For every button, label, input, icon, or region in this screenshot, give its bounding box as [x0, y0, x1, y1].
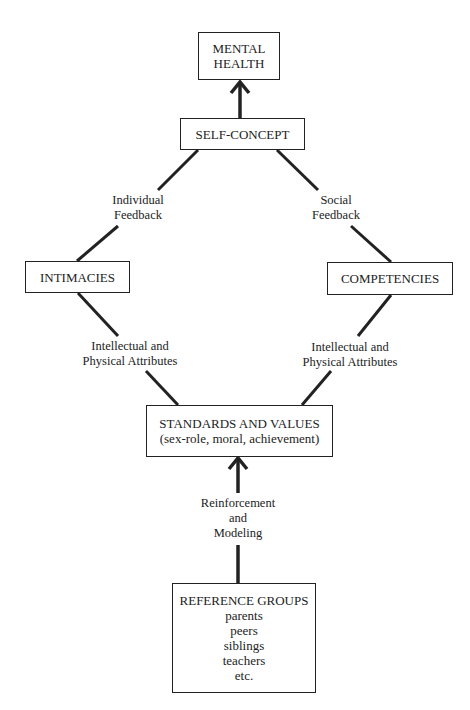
node-text: INTIMACIES: [40, 270, 115, 285]
node-title: REFERENCE GROUPS: [180, 593, 309, 608]
label-line: Feedback: [108, 208, 168, 223]
label-line: Intellectual and: [295, 340, 405, 355]
edge-label-right-attributes: Intellectual and Physical Attributes: [295, 340, 405, 370]
node-text: MENTAL: [212, 41, 265, 56]
line-individual-feedback-to-intimacies: [77, 226, 118, 261]
label-line: Individual: [108, 193, 168, 208]
label-line: Feedback: [306, 208, 366, 223]
node-title: STANDARDS AND VALUES: [159, 416, 319, 431]
group-item: siblings: [224, 638, 264, 653]
node-text: SELF-CONCEPT: [196, 127, 290, 142]
label-line: Intellectual and: [75, 339, 185, 354]
line-intimacies-to-attributes: [78, 293, 118, 336]
edge-label-left-attributes: Intellectual and Physical Attributes: [75, 339, 185, 369]
group-item: parents: [225, 608, 263, 623]
line-social-feedback-to-competencies: [351, 226, 391, 262]
label-line: Physical Attributes: [75, 354, 185, 369]
node-mental-health: MENTAL HEALTH: [198, 32, 280, 80]
label-line: Social: [306, 193, 366, 208]
line-self-concept-to-individual-feedback: [158, 150, 198, 190]
node-reference-groups: REFERENCE GROUPS parents peers siblings …: [172, 583, 316, 693]
label-line: Physical Attributes: [295, 355, 405, 370]
node-intimacies: INTIMACIES: [25, 261, 130, 293]
label-line: Modeling: [193, 526, 283, 541]
node-self-concept: SELF-CONCEPT: [180, 118, 305, 150]
line-competencies-to-attributes: [358, 295, 391, 336]
line-self-concept-to-social-feedback: [277, 150, 318, 190]
node-standards-and-values: STANDARDS AND VALUES (sex-role, moral, a…: [146, 405, 333, 457]
label-line: and: [193, 511, 283, 526]
node-competencies: COMPETENCIES: [327, 262, 453, 295]
line-attributes-to-standards-right: [302, 371, 331, 405]
line-attributes-to-standards: [146, 371, 178, 405]
edge-label-individual-feedback: Individual Feedback: [108, 193, 168, 223]
edge-label-reinforcement-modeling: Reinforcement and Modeling: [193, 496, 283, 541]
group-item: peers: [230, 623, 257, 638]
edge-label-social-feedback: Social Feedback: [306, 193, 366, 223]
group-item: etc.: [235, 668, 253, 683]
node-text: COMPETENCIES: [341, 271, 439, 286]
group-item: teachers: [223, 653, 266, 668]
node-subtitle: (sex-role, moral, achievement): [160, 431, 320, 446]
node-text: HEALTH: [214, 56, 265, 71]
label-line: Reinforcement: [193, 496, 283, 511]
